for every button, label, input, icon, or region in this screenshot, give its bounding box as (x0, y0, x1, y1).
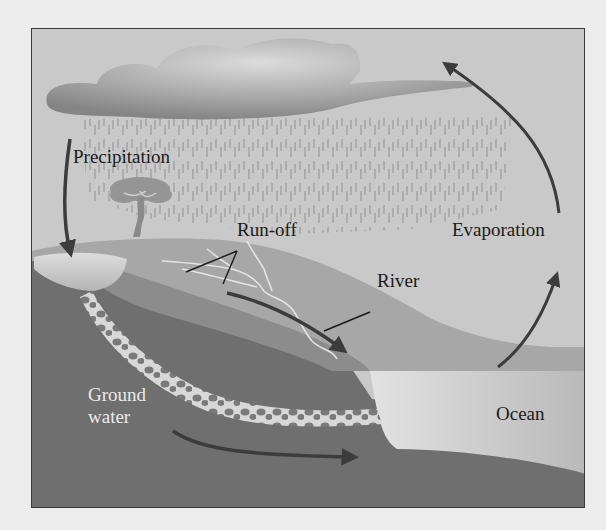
precipitation-arrow (65, 139, 70, 251)
label-run-off: Run-off (237, 220, 297, 239)
label-ground-water-line2: water (88, 407, 130, 426)
label-river: River (377, 271, 419, 290)
cloud (46, 39, 473, 120)
label-evaporation: Evaporation (452, 220, 545, 239)
rain-area (82, 117, 512, 234)
label-precipitation: Precipitation (73, 147, 170, 166)
diagram-artwork (32, 29, 585, 508)
label-ground-water-line1: Ground (88, 385, 146, 404)
water-cycle-diagram: Precipitation Run-off Evaporation River … (31, 28, 585, 508)
label-ocean: Ocean (496, 404, 545, 423)
